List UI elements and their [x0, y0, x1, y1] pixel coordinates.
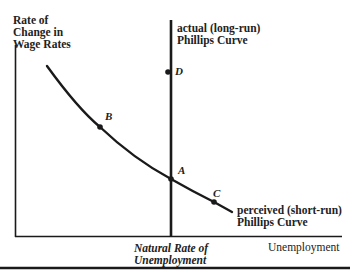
point-b-label: B: [105, 110, 112, 122]
y-axis-label-line-2: Change in: [13, 26, 71, 38]
point-a-label: A: [178, 164, 185, 176]
short-run-label-line-1: perceived (short-run): [237, 204, 342, 216]
short-run-phillips-curve: [47, 66, 232, 212]
natural-rate-line-2: Unemployment: [134, 254, 208, 266]
x-axis-label: Unemployment: [268, 241, 340, 253]
point-a-marker: [168, 176, 174, 182]
short-run-label-line-2: Phillips Curve: [237, 216, 342, 228]
long-run-label-line-2: Phillips Curve: [177, 34, 260, 46]
point-c-marker: [211, 199, 217, 205]
point-b-marker: [97, 124, 103, 130]
long-run-curve-label: actual (long-run) Phillips Curve: [177, 22, 260, 46]
natural-rate-line-1: Natural Rate of: [134, 242, 208, 254]
y-axis-label-line-3: Wage Rates: [13, 38, 71, 50]
y-axis-label-line-1: Rate of: [13, 14, 71, 26]
short-run-curve-label: perceived (short-run) Phillips Curve: [237, 204, 342, 228]
y-axis-label: Rate of Change in Wage Rates: [13, 14, 71, 50]
point-d-marker: [165, 69, 171, 75]
natural-rate-tick-label: Natural Rate of Unemployment: [134, 242, 208, 266]
point-d-label: D: [175, 65, 183, 77]
long-run-label-line-1: actual (long-run): [177, 22, 260, 34]
point-c-label: C: [213, 187, 220, 199]
